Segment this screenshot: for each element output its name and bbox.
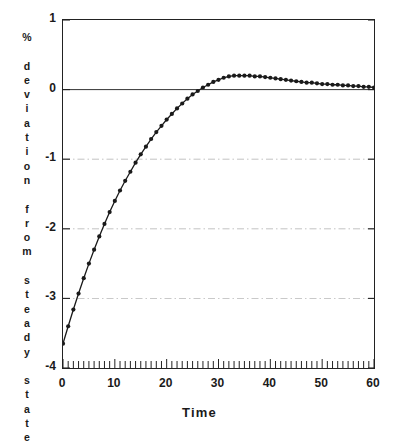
y-axis-title-char: m [18, 244, 36, 258]
data-point-marker [201, 85, 205, 89]
data-point-marker [248, 74, 252, 78]
y-axis-title-char: a [18, 316, 36, 330]
data-point-marker [362, 85, 366, 89]
y-axis-title-char: t [18, 130, 36, 144]
data-point-marker [92, 248, 96, 252]
data-point-marker [330, 83, 334, 87]
data-point-marker [144, 145, 148, 149]
y-axis-title-char: e [18, 430, 36, 444]
y-axis-title-space [18, 187, 36, 201]
y-tick-label--3: -3 [20, 289, 56, 303]
data-point-marker [279, 77, 283, 81]
data-point-marker [372, 85, 374, 89]
data-point-marker [87, 262, 91, 266]
data-point-marker [175, 106, 179, 110]
data-point-marker [341, 83, 345, 87]
data-point-marker [237, 74, 241, 78]
data-series-deviation [63, 74, 374, 346]
data-point-marker [159, 124, 163, 128]
data-point-marker [227, 74, 231, 78]
x-minor-ticks [63, 359, 374, 368]
data-point-marker [216, 78, 220, 82]
y-axis-title-char: f [18, 202, 36, 216]
data-point-marker [149, 137, 153, 141]
data-point-marker [242, 74, 246, 78]
data-point-marker [284, 78, 288, 82]
data-point-marker [346, 83, 350, 87]
top-partial-text [0, 0, 399, 5]
data-point-marker [273, 76, 277, 80]
data-point-marker [97, 234, 101, 238]
y-axis-title-char: a [18, 116, 36, 130]
data-point-marker [315, 81, 319, 85]
data-point-marker [113, 199, 117, 203]
data-point-marker [305, 81, 309, 85]
data-point-marker [170, 112, 174, 116]
data-point-marker [222, 76, 226, 80]
data-point-marker [190, 92, 194, 96]
data-point-marker [356, 84, 360, 88]
data-point-marker [123, 179, 127, 183]
data-point-marker [180, 101, 184, 105]
data-point-marker [108, 210, 112, 214]
data-point-marker [66, 324, 70, 328]
x-axis-title: Time [0, 405, 399, 420]
y-axis-title-char: d [18, 330, 36, 344]
data-point-marker [320, 82, 324, 86]
data-point-marker [299, 80, 303, 84]
y-axis-title-char: % [18, 30, 36, 44]
data-point-marker [128, 170, 132, 174]
data-point-marker [289, 78, 293, 82]
data-point-marker [310, 81, 314, 85]
data-point-marker [325, 82, 329, 86]
series-line [63, 76, 374, 344]
y-axis-title-space [18, 259, 36, 273]
data-point-marker [118, 188, 122, 192]
data-point-marker [206, 83, 210, 87]
data-point-marker [258, 74, 262, 78]
plot-area [62, 19, 375, 369]
y-axis-title-char: t [18, 387, 36, 401]
data-point-marker [268, 76, 272, 80]
x-tick-label-20: 20 [159, 376, 172, 390]
y-axis-title-char: s [18, 273, 36, 287]
data-point-marker [154, 130, 158, 134]
data-point-marker [133, 161, 137, 165]
x-tick-label-30: 30 [211, 376, 224, 390]
x-tick-label-0: 0 [59, 376, 66, 390]
data-point-marker [253, 74, 257, 78]
y-axis-title-char: i [18, 101, 36, 115]
y-axis-title-char: e [18, 302, 36, 316]
y-axis-title-space [18, 44, 36, 58]
y-tick-label-1: 1 [20, 11, 56, 25]
x-tick-label-50: 50 [314, 376, 327, 390]
x-tick-label-60: 60 [366, 376, 379, 390]
plot-svg [63, 20, 374, 368]
y-major-ticks [63, 20, 374, 368]
data-point-marker [63, 342, 65, 346]
gridlines [63, 159, 374, 298]
data-point-marker [165, 117, 169, 121]
y-tick-label--1: -1 [20, 150, 56, 164]
data-point-marker [263, 75, 267, 79]
y-tick-label--4: -4 [20, 359, 56, 373]
y-axis-title-char: n [18, 173, 36, 187]
data-point-marker [82, 276, 86, 280]
y-axis-title-char: s [18, 373, 36, 387]
x-tick-label-10: 10 [107, 376, 120, 390]
x-tick-label-40: 40 [263, 376, 276, 390]
data-point-marker [76, 291, 80, 295]
data-point-marker [185, 97, 189, 101]
data-point-marker [294, 79, 298, 83]
y-tick-label-0: 0 [20, 81, 56, 95]
data-point-marker [71, 307, 75, 311]
data-point-marker [232, 74, 236, 78]
data-point-marker [367, 85, 371, 89]
data-point-marker [139, 152, 143, 156]
y-axis-title-char: d [18, 59, 36, 73]
y-tick-label--2: -2 [20, 220, 56, 234]
data-point-marker [102, 222, 106, 226]
y-axis-title-char: y [18, 345, 36, 359]
data-point-marker [351, 84, 355, 88]
